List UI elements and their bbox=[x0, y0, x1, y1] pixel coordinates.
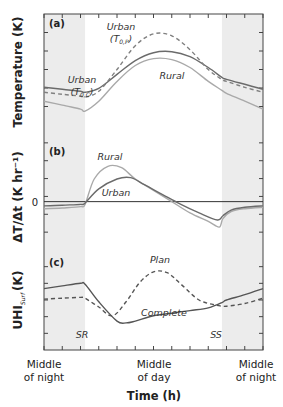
panel-tag-c: (c) bbox=[49, 257, 64, 268]
label-urban-c: Urban bbox=[68, 74, 97, 85]
sunrise-label: SR bbox=[76, 329, 89, 340]
xlabel: Time (h) bbox=[127, 389, 181, 403]
ylabel-uhi-sub: Surf bbox=[19, 292, 26, 305]
panel-tag-a: (a) bbox=[49, 18, 65, 29]
xcat-2-line1: Middle bbox=[239, 358, 274, 370]
label-plan: Plan bbox=[150, 254, 170, 265]
xcat-0-line1: Middle bbox=[27, 358, 62, 370]
xcat-1-line1: Middle bbox=[137, 358, 172, 370]
ylabel-uhi-unit: (K) bbox=[11, 271, 25, 291]
xcat-2-line2: of night bbox=[236, 371, 276, 383]
xcat-1-line2: of day bbox=[138, 371, 171, 383]
sunset-label: SS bbox=[210, 329, 222, 340]
label-urban-p-sym: (T0,P) bbox=[110, 33, 133, 45]
label-rural-b: Rural bbox=[98, 151, 123, 162]
label-urban-p-sub: 0,P bbox=[119, 38, 129, 45]
figure: (a) (b) (c) Temperature (K) ΔT/Δt (K hr⁻… bbox=[0, 0, 283, 407]
ylabel-temperature: Temperature (K) bbox=[11, 17, 25, 128]
label-complete: Complete bbox=[141, 307, 187, 318]
ylabel-uhi-main: UHI bbox=[11, 305, 25, 329]
label-urban-b: Urban bbox=[102, 187, 131, 198]
label-rural-a: Rural bbox=[160, 70, 185, 81]
night-shade-0 bbox=[44, 14, 85, 350]
panel-tag-b: (b) bbox=[49, 146, 65, 157]
ylabel-uhi: UHISurf(K) bbox=[11, 271, 26, 330]
zero-tick-label: 0 bbox=[32, 197, 38, 208]
label-urban-p: Urban bbox=[107, 21, 136, 32]
xcat-0-line2: of night bbox=[24, 371, 64, 383]
ylabel-dtdt: ΔT/Δt (K hr⁻¹) bbox=[11, 151, 25, 243]
